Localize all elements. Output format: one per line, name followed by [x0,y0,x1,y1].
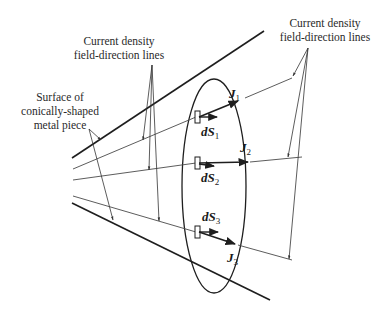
cone-current-density-diagram: Surface of conically-shaped metal piece … [0,0,390,314]
field-lines-left-label-line2: field-direction lines [74,49,165,61]
surface-label-line3: metal piece [34,119,87,132]
J2-vector-arrow [199,162,248,163]
surface-label-line2: conically-shaped [21,105,99,118]
J2-label: J2 [239,140,251,157]
dS1-label: dS1 [201,124,219,141]
field-line-3-right [238,245,292,260]
leader-surface-bottom [89,129,113,220]
dS3-label: dS3 [202,209,221,226]
dS2-normal-arrow [199,164,214,166]
cone-surface-bottom-line [72,203,270,300]
dS2-label: dS2 [201,170,219,187]
field-lines-right-label-line2: field-direction lines [280,31,371,43]
leader-right-2 [288,48,308,157]
field-line-2-right [250,157,302,162]
leader-left-3 [152,65,159,221]
field-lines-right-label-line1: Current density [289,17,360,30]
field-lines-left-label-line1: Current density [83,35,154,48]
field-line-1-right [245,78,292,98]
leader-right-3 [289,48,308,259]
diagram-canvas: Surface of conically-shaped metal piece … [0,0,390,314]
J1-label: J1 [228,86,240,103]
field-line-2-left [73,163,196,180]
surface-label-line1: Surface of [36,91,84,103]
field-line-3-left [73,196,196,232]
field-line-1-left [73,117,196,169]
J3-label: J3 [226,250,239,267]
J1-vector-arrow [199,101,238,117]
J3-vector-arrow [199,232,235,244]
